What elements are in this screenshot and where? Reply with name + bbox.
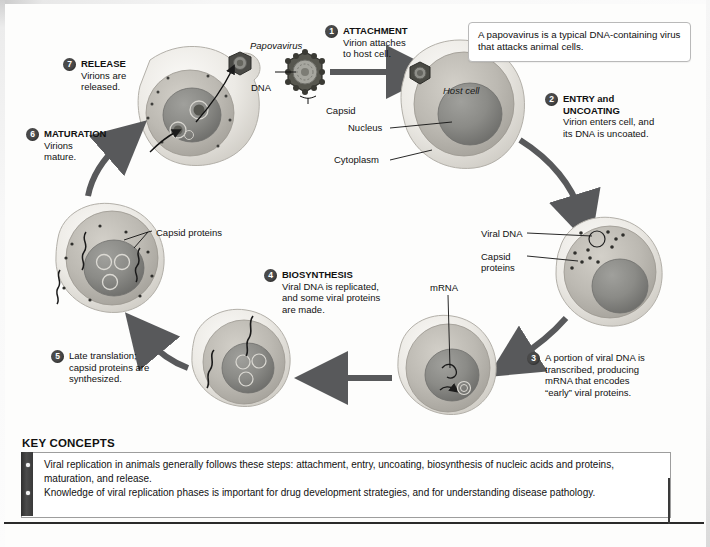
step-6-desc-line-1: Virions: [44, 140, 156, 152]
cell-capsid-proteins: [56, 203, 164, 312]
step-1-desc-line-1: Virion attaches: [343, 37, 445, 49]
step-2-desc-line-2: its DNA is uncoated.: [563, 128, 695, 140]
step-5-desc-line-2: capsid proteins are: [69, 362, 201, 374]
step-7-desc-line-1: Virions are: [81, 70, 193, 82]
step-7-release: 7 RELEASE Virions are released.: [63, 58, 193, 93]
key-concepts-item-1: Viral replication in animals generally f…: [44, 458, 644, 485]
label-viral-dna: Viral DNA: [481, 228, 523, 239]
step-4-biosynthesis: 4 BIOSYNTHESIS Viral DNA is replicated, …: [264, 269, 424, 315]
step-4-desc-line-3: are made.: [282, 304, 424, 316]
step-6-maturation: 6 MATURATION Virions mature.: [26, 128, 156, 163]
step-2-entry-uncoating: 2 ENTRY and UNCOATING Virion enters cell…: [545, 93, 695, 139]
step-5-late-translation: 5 Late translation; capsid proteins are …: [51, 350, 201, 385]
key-concepts-item-2: Knowledge of viral replication phases is…: [44, 486, 644, 500]
step-7-title: RELEASE: [81, 58, 193, 70]
label-nucleus: Nucleus: [348, 122, 382, 133]
free-virion-papovavirus: [275, 49, 325, 104]
key-concepts-bullet-2: [26, 491, 30, 495]
step-4-desc-line-1: Viral DNA is replicated,: [282, 281, 424, 293]
callout-papovavirus: A papovavirus is a typical DNA-containin…: [468, 22, 691, 62]
step-6-badge: 6: [26, 128, 39, 141]
step-3-badge: 3: [527, 352, 540, 365]
step-4-badge: 4: [264, 269, 277, 282]
page-bottom-rule: [4, 522, 704, 524]
step-5-badge: 5: [51, 350, 64, 363]
key-concepts-bullet-1: [26, 463, 30, 467]
label-capsid-proteins-right-line1: Capsid: [481, 251, 511, 262]
label-dna: DNA: [251, 82, 271, 93]
step-6-desc-line-2: mature.: [44, 151, 156, 163]
step-6-title: MATURATION: [44, 128, 156, 140]
key-concepts-heading: KEY CONCEPTS: [22, 437, 115, 449]
step-3-transcription: 3 A portion of viral DNA is transcribed,…: [527, 352, 687, 398]
arrow-step2: [520, 140, 580, 212]
key-concepts-bar: [21, 452, 33, 516]
step-1-desc-line-2: to host cell.: [343, 48, 445, 60]
step-2-desc-line-1: Virion enters cell, and: [563, 116, 695, 128]
step-2-badge: 2: [545, 93, 558, 106]
label-papovavirus: Papovavirus: [250, 40, 302, 51]
cell-biosynthesis: [192, 309, 290, 406]
step-4-title: BIOSYNTHESIS: [282, 269, 424, 281]
callout-text: A papovavirus is a typical DNA-containin…: [478, 29, 680, 52]
step-3-desc-line-1: A portion of viral DNA is: [545, 352, 687, 364]
label-capsid: Capsid: [326, 105, 356, 116]
figure-page: Papovavirus DNA Capsid Host cell Nucleus…: [0, 0, 710, 547]
page-right-rule: [668, 478, 670, 524]
step-1-badge: 1: [325, 25, 338, 38]
label-cytoplasm: Cytoplasm: [334, 154, 379, 165]
step-3-desc-line-3: mRNA that encodes: [545, 375, 687, 387]
cell-viral-dna: [527, 217, 662, 326]
step-3-desc-line-2: transcribed, producing: [545, 364, 687, 376]
label-host-cell: Host cell: [443, 85, 479, 96]
step-5-desc-line-1: Late translation;: [69, 350, 201, 362]
step-1-attachment: 1 ATTACHMENT Virion attaches to host cel…: [325, 25, 445, 60]
step-1-title: ATTACHMENT: [343, 25, 445, 37]
label-mrna: mRNA: [430, 282, 458, 293]
step-7-badge: 7: [63, 58, 76, 71]
label-capsid-proteins-left: Capsid proteins: [156, 227, 222, 238]
step-4-desc-line-2: and some viral proteins: [282, 292, 424, 304]
step-3-desc-line-4: “early” viral proteins.: [545, 387, 687, 399]
step-5-desc-line-3: synthesized.: [69, 373, 201, 385]
step-7-desc-line-2: released.: [81, 81, 193, 93]
label-capsid-proteins-right-line2: proteins: [481, 262, 515, 273]
step-2-title-line-2: UNCOATING: [563, 105, 695, 117]
step-2-title-line-1: ENTRY and: [563, 93, 695, 105]
